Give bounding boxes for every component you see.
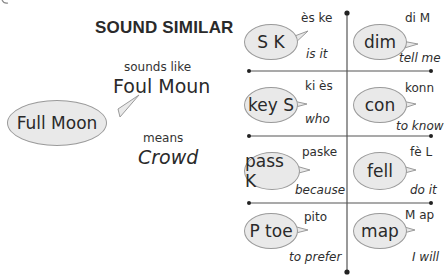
bubble-text: map — [361, 221, 399, 241]
bubble-text: S K — [257, 32, 284, 52]
bubble-text: pass K — [245, 151, 299, 191]
meaning: do it — [410, 183, 437, 197]
cropped-text-fragment — [0, 0, 14, 12]
speech-bubble-key-s: key S — [244, 87, 298, 123]
speech-bubble-map: map — [353, 213, 407, 249]
meaning: is it — [306, 47, 327, 61]
page-title: SOUND SIMILAR — [95, 18, 234, 38]
pronunciation: ès ke — [301, 11, 332, 25]
bubble-text: Full Moon — [17, 113, 98, 133]
bubble-text: P toe — [249, 221, 292, 241]
meaning: who — [305, 112, 330, 126]
speech-bubble-pass-k: pass K — [244, 152, 300, 190]
bubble-text: dim — [364, 32, 396, 52]
means-value: Crowd — [138, 146, 198, 168]
speech-bubble-fell: fell — [353, 152, 407, 190]
speech-bubble-p-toe: P toe — [244, 213, 298, 249]
pronunciation: M ap — [405, 208, 434, 222]
pronunciation: konn — [405, 81, 434, 95]
bubble-text: key S — [248, 95, 294, 115]
bubble-text: con — [365, 95, 396, 115]
means-label: means — [143, 131, 183, 145]
sounds-like-value: Foul Moun — [113, 75, 210, 97]
pronunciation: paske — [302, 145, 337, 159]
meaning: tell me — [399, 51, 441, 65]
meaning: to prefer — [289, 250, 341, 264]
bubble-text: fell — [367, 161, 393, 181]
pronunciation: fè L — [410, 145, 432, 159]
speech-bubble-full-moon: Full Moon — [7, 100, 107, 146]
speech-bubble-con: con — [353, 87, 407, 123]
pronunciation: ki ès — [305, 79, 333, 93]
pronunciation: di M — [405, 11, 430, 25]
pronunciation: pito — [304, 210, 327, 224]
meaning: I will — [412, 250, 439, 264]
sounds-like-label: sounds like — [124, 60, 191, 74]
speech-bubble-sk: S K — [244, 24, 298, 60]
meaning: because — [295, 183, 345, 197]
meaning: to know — [396, 119, 444, 133]
